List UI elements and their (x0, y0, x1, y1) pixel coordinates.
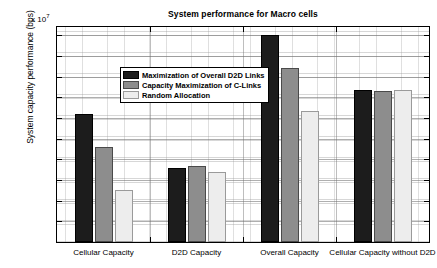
bar-1-0 (95, 147, 113, 242)
grid-line (150, 27, 151, 242)
bar-0-2 (261, 35, 279, 242)
legend-swatch-series-1 (123, 81, 139, 89)
x-tick-label: D2D Capacity (172, 248, 221, 257)
y-tick-mark (57, 201, 62, 202)
grid-line (336, 27, 337, 242)
y-tick-mark (424, 180, 429, 181)
legend-label-series-0: Maximization of Overall D2D Links (142, 71, 265, 80)
y-tick-mark (57, 56, 62, 57)
y-tick-mark (57, 221, 62, 222)
bar-0-0 (75, 114, 93, 242)
x-tick-mark (336, 27, 337, 32)
legend-item: Random Allocation (123, 90, 265, 100)
y-axis-exponent-power: 7 (46, 13, 49, 19)
y-tick-mark (424, 35, 429, 36)
bar-1-2 (281, 68, 299, 242)
chart-figure: System performance for Macro cells x 107… (0, 0, 437, 268)
legend-swatch-series-0 (123, 71, 139, 79)
grid-line (243, 27, 244, 242)
legend: Maximization of Overall D2D Links Capaci… (120, 67, 269, 103)
x-tick-label: Cellular Capacity without D2D (329, 248, 435, 257)
y-tick-mark (424, 159, 429, 160)
bar-2-2 (301, 111, 319, 242)
y-tick-mark (424, 201, 429, 202)
y-axis-label: System capacity performance (bps) (25, 0, 35, 167)
x-tick-mark (150, 27, 151, 32)
legend-label-series-1: Capacity Maximization of C-Links (142, 81, 261, 90)
x-tick-mark (336, 237, 337, 242)
bar-1-1 (188, 166, 206, 242)
legend-label-series-2: Random Allocation (142, 91, 210, 100)
bar-1-3 (374, 91, 392, 242)
bar-2-1 (208, 172, 226, 242)
x-tick-mark (150, 237, 151, 242)
bar-2-0 (115, 190, 133, 243)
chart-title: System performance for Macro cells (56, 9, 430, 19)
bar-0-3 (354, 90, 372, 242)
legend-item: Maximization of Overall D2D Links (123, 70, 265, 80)
bar-2-3 (394, 90, 412, 242)
y-tick-mark (424, 97, 429, 98)
bar-0-1 (168, 168, 186, 242)
y-tick-mark (57, 35, 62, 36)
y-tick-mark (57, 180, 62, 181)
y-tick-mark (424, 118, 429, 119)
plot-area: 0.511.522.533.544.55 Cellular CapacityD2… (56, 26, 430, 243)
y-tick-mark (57, 139, 62, 140)
y-tick-mark (57, 77, 62, 78)
y-tick-mark (424, 139, 429, 140)
y-tick-mark (57, 118, 62, 119)
x-tick-label: Overall Capacity (260, 248, 319, 257)
y-tick-mark (424, 77, 429, 78)
legend-item: Capacity Maximization of C-Links (123, 80, 265, 90)
x-tick-mark (243, 237, 244, 242)
y-tick-mark (57, 97, 62, 98)
y-tick-mark (57, 159, 62, 160)
x-tick-label: Cellular Capacity (73, 248, 133, 257)
x-tick-mark (243, 27, 244, 32)
y-tick-mark (424, 221, 429, 222)
legend-swatch-series-2 (123, 91, 139, 99)
y-tick-mark (424, 56, 429, 57)
